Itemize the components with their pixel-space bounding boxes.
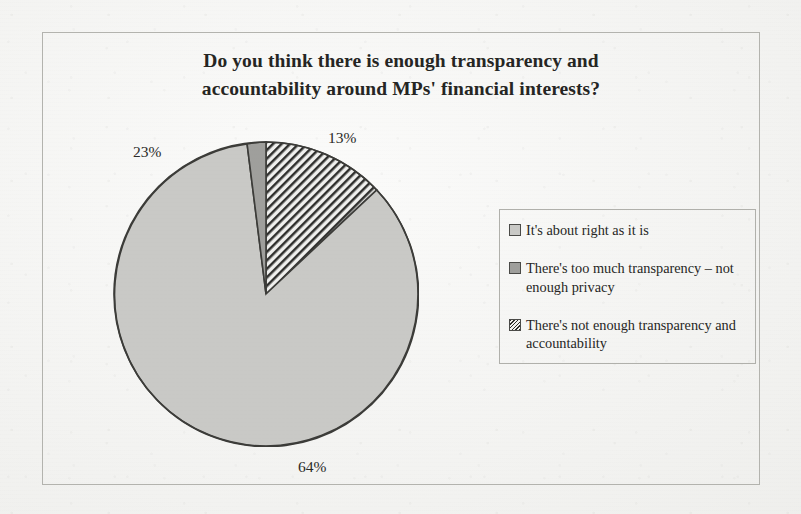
slice-label-64-percent: 64% [298, 458, 326, 476]
legend-item-about-right: It's about right as it is [509, 221, 746, 239]
hatched-swatch-icon [509, 319, 521, 331]
medium-gray-swatch-icon [509, 262, 521, 274]
slice-label-23-percent: 23% [133, 143, 161, 161]
pie-chart-svg [113, 141, 419, 447]
legend-item-too-much-transparency: There's too much transparency – not enou… [509, 259, 746, 296]
light-gray-swatch-icon [509, 224, 521, 236]
chart-title: Do you think there is enough transparenc… [43, 47, 759, 102]
scanned-page: Do you think there is enough transparenc… [0, 0, 801, 514]
legend-label-not-enough-transparency: There's not enough transparency and acco… [526, 316, 746, 353]
chart-frame: Do you think there is enough transparenc… [42, 32, 760, 485]
chart-legend: It's about right as it is There's too mu… [499, 209, 756, 364]
legend-item-not-enough-transparency: There's not enough transparency and acco… [509, 316, 746, 353]
legend-label-too-much-transparency: There's too much transparency – not enou… [526, 259, 746, 296]
slice-label-13-percent: 13% [328, 129, 356, 147]
pie-chart [113, 141, 419, 447]
legend-label-about-right: It's about right as it is [526, 221, 649, 239]
